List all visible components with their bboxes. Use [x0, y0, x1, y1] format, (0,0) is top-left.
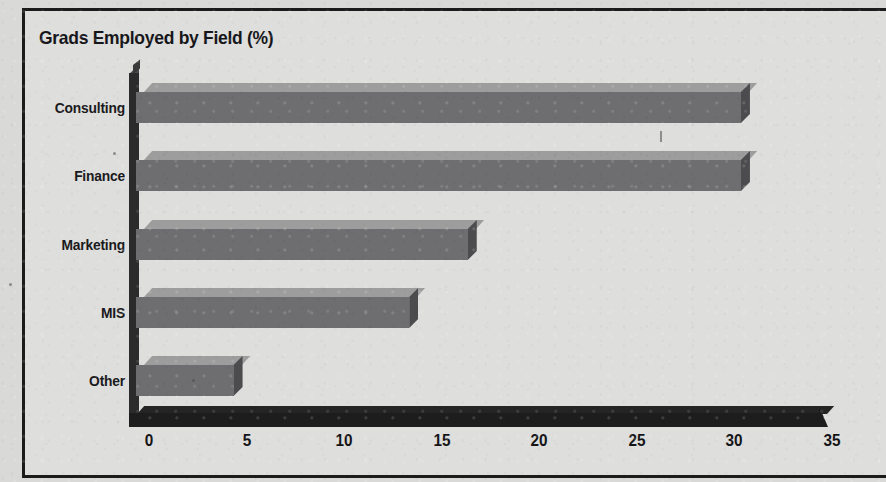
category-label-row: MIS [25, 304, 125, 322]
bar-front-face [136, 297, 409, 328]
x-tick-0: 0 [145, 431, 154, 451]
category-label-row: Finance [25, 167, 125, 185]
bar-front-face [136, 92, 741, 123]
category-label-row: Other [25, 372, 125, 390]
x-tick-5: 5 [242, 431, 251, 451]
x-tick-20: 20 [531, 431, 548, 451]
category-label-consulting: Consulting [37, 99, 125, 116]
category-label-row: Consulting [25, 99, 125, 117]
bar-front-face [136, 160, 741, 191]
category-label-mis: MIS [37, 304, 125, 321]
bar-consulting [136, 83, 750, 123]
bar-top-face [144, 220, 484, 229]
category-label-finance: Finance [37, 167, 125, 184]
frame-border-bottom [22, 475, 886, 478]
bar-mis [136, 288, 418, 328]
bar-finance [136, 151, 750, 191]
bar-marketing [136, 220, 477, 260]
x-tick-35: 35 [823, 431, 840, 451]
bar-top-face [144, 83, 757, 92]
chart-panel: Grads Employed by Field (%) ConsultingFi… [25, 11, 886, 475]
x-tick-10: 10 [336, 431, 353, 451]
bar-other [136, 356, 243, 396]
x-tick-30: 30 [726, 431, 743, 451]
bar-top-face [144, 356, 250, 365]
x-tick-15: 15 [433, 431, 450, 451]
bar-top-face [144, 151, 757, 160]
chart-page: Grads Employed by Field (%) ConsultingFi… [0, 0, 886, 482]
category-label-other: Other [37, 372, 125, 389]
x-tick-25: 25 [628, 431, 645, 451]
plot-area: ConsultingFinanceMarketingMISOther 05101… [25, 11, 886, 475]
bar-front-face [136, 229, 468, 260]
bar-front-face [136, 365, 234, 396]
category-label-row: Marketing [25, 236, 125, 254]
bar-top-face [144, 288, 425, 297]
paper-speck [9, 283, 12, 286]
category-label-marketing: Marketing [37, 236, 125, 253]
x-axis-line [129, 413, 819, 427]
x-axis-arrow-cap [819, 406, 828, 427]
